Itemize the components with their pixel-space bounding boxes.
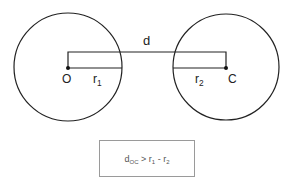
center-label-c: C	[228, 73, 237, 85]
center-point-c	[224, 66, 228, 70]
radius-label-r2: r2	[195, 73, 204, 85]
radius-r1-sub: 1	[97, 78, 102, 88]
center-point-o	[66, 66, 70, 70]
center-label-o: O	[62, 73, 71, 85]
distance-label: d	[143, 34, 150, 47]
radius-label-r1: r1	[93, 73, 102, 85]
radius-r2-sub: 2	[199, 78, 204, 88]
formula-box: dOC > r1 - r2	[99, 140, 195, 177]
formula-text: dOC > r1 - r2	[125, 154, 170, 164]
distance-bracket-line	[68, 52, 226, 68]
